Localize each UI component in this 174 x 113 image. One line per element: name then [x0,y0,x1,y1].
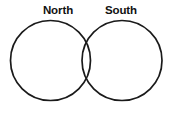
venn-diagram-canvas: North South [0,0,174,113]
diagram-background [0,0,174,113]
venn-label-south: South [105,4,137,16]
venn-label-north: North [43,4,73,16]
venn-diagram-figure: North South [0,0,174,113]
